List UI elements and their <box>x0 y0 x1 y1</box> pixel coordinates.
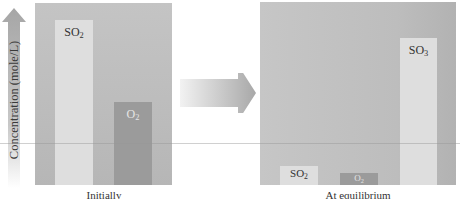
right-arrow-icon <box>180 73 256 113</box>
bar-label: O2 <box>354 173 364 185</box>
bar-equilibrium-o2: O2 <box>340 173 378 185</box>
bar-equilibrium-so2: SO2 <box>280 166 318 185</box>
bar-label: SO2 <box>290 167 308 185</box>
bar-equilibrium-so3: SO3 <box>400 38 437 185</box>
bar-label: SO2 <box>64 25 84 185</box>
bar-label: SO3 <box>409 43 429 185</box>
initial-caption: Initially <box>87 189 122 199</box>
bar-initial-so2: SO2 <box>55 20 93 185</box>
scan-line-divider <box>0 143 460 144</box>
bar-label: O2 <box>127 107 140 185</box>
y-axis-label: Concentration (mole/L) <box>7 41 22 159</box>
equilibrium-caption: At equilibrium <box>325 189 390 199</box>
